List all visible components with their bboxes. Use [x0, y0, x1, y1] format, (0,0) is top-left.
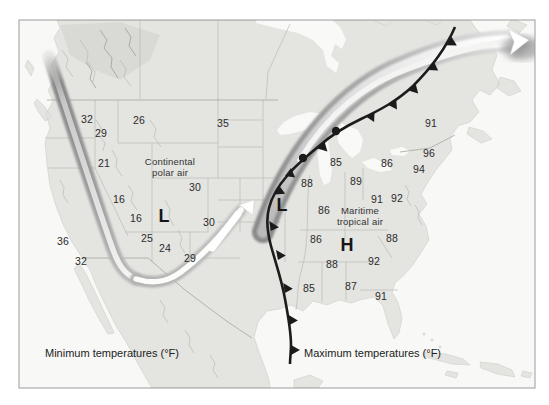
max-temp-label: 92	[391, 192, 403, 204]
min-temp-label: 36	[57, 235, 69, 247]
caption-minimum-temperatures: Minimum temperatures (°F)	[45, 347, 179, 359]
max-temp-label: 91	[425, 117, 437, 129]
max-temp-label: 86	[381, 157, 393, 169]
min-temp-label: 30	[189, 181, 201, 193]
max-temp-label: 86	[318, 204, 330, 216]
min-temp-label: 30	[203, 216, 215, 228]
min-temp-label: 29	[184, 252, 196, 264]
max-temp-label: 86	[310, 233, 322, 245]
min-temp-label: 29	[95, 127, 107, 139]
min-temp-label: 32	[75, 255, 87, 267]
min-temp-label: 16	[130, 212, 142, 224]
min-temp-label: 16	[113, 193, 125, 205]
pressure-center-low-central: L	[277, 195, 288, 216]
air-mass-label-line: polar air	[145, 167, 195, 178]
min-temp-label: 26	[133, 114, 145, 126]
weather-map-figure: 32 29 26 35 21 30 16 16 30 25 24 29 36 3…	[0, 0, 549, 405]
max-temp-label: 85	[303, 282, 315, 294]
air-mass-label-maritime-tropical: Maritime tropical air	[337, 206, 383, 227]
min-temp-label: 21	[98, 157, 110, 169]
air-mass-label-line: Maritime	[337, 206, 383, 217]
max-temp-label: 92	[368, 255, 380, 267]
air-mass-label-line: tropical air	[337, 216, 383, 227]
max-temp-label: 91	[375, 290, 387, 302]
map-graphics	[0, 0, 549, 405]
min-temp-label: 25	[141, 232, 153, 244]
min-temp-label: 24	[159, 242, 171, 254]
pressure-center-high-southeast: H	[341, 235, 354, 256]
max-temp-label: 85	[330, 156, 342, 168]
max-temp-label: 88	[301, 177, 313, 189]
max-temp-label: 89	[350, 175, 362, 187]
air-mass-label-line: Continental	[145, 157, 195, 168]
pressure-center-low-west: L	[159, 206, 170, 227]
caption-maximum-temperatures: Maximum temperatures (°F)	[304, 347, 441, 359]
min-temp-label: 32	[81, 113, 93, 125]
max-temp-label: 88	[326, 258, 338, 270]
max-temp-label: 96	[423, 147, 435, 159]
air-mass-label-continental-polar: Continental polar air	[145, 157, 195, 178]
max-temp-label: 87	[345, 280, 357, 292]
max-temp-label: 94	[413, 163, 425, 175]
max-temp-label: 88	[386, 232, 398, 244]
min-temp-label: 35	[217, 117, 229, 129]
max-temp-label: 91	[371, 193, 383, 205]
